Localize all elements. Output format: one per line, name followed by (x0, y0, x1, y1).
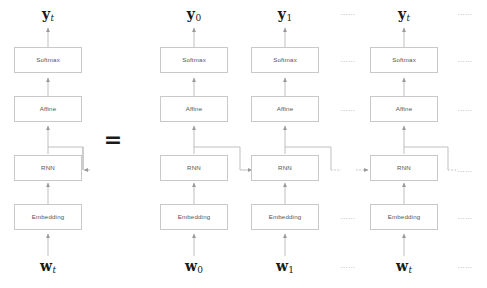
output-subscript: t (50, 13, 54, 23)
input-label-t0: w0 (185, 258, 203, 275)
node-label: Softmax (36, 57, 60, 63)
node-rnn-tt[interactable]: RNN (370, 155, 438, 181)
node-label: Affine (396, 106, 413, 112)
input-label-folded: wt (40, 258, 56, 275)
output-label-t0: y0 (187, 6, 201, 23)
input-symbol: w (396, 258, 408, 274)
ellipsis-mid-row2: …… (341, 106, 356, 113)
input-subscript: t (52, 265, 56, 275)
output-label-t1: y1 (278, 6, 292, 23)
node-label: RNN (278, 165, 292, 171)
output-label-folded: yt (42, 6, 54, 23)
node-affine-tt[interactable]: Affine (370, 96, 438, 122)
node-label: Softmax (182, 57, 206, 63)
equals-sign: = (104, 128, 122, 150)
input-subscript: 1 (288, 265, 294, 275)
node-label: RNN (397, 165, 411, 171)
ellipsis-right-row3: …… (458, 167, 473, 174)
node-softmax-tt[interactable]: Softmax (370, 47, 438, 73)
ellipsis-mid-row0: …… (341, 10, 356, 17)
node-label: Embedding (388, 214, 421, 220)
node-rnn-t1[interactable]: RNN (251, 155, 319, 181)
ellipsis-right-row4: …… (458, 214, 473, 221)
node-rnn-t0[interactable]: RNN (160, 155, 228, 181)
ellipsis-mid-row3: …… (341, 214, 356, 221)
node-embedding-t1[interactable]: Embedding (251, 204, 319, 230)
node-label: RNN (41, 165, 55, 171)
node-label: Embedding (178, 214, 211, 220)
input-label-tt: wt (396, 258, 412, 275)
node-label: Embedding (32, 214, 65, 220)
input-symbol: w (40, 258, 52, 274)
node-softmax-t0[interactable]: Softmax (160, 47, 228, 73)
node-embedding-t0[interactable]: Embedding (160, 204, 228, 230)
node-label: Softmax (392, 57, 416, 63)
ellipsis-mid-row1: …… (341, 57, 356, 64)
node-embedding-tt[interactable]: Embedding (370, 204, 438, 230)
node-softmax-t1[interactable]: Softmax (251, 47, 319, 73)
output-subscript: 0 (195, 13, 201, 23)
input-symbol: w (185, 258, 197, 274)
ellipsis-right-row0: …… (458, 10, 473, 17)
input-subscript: t (408, 265, 412, 275)
output-label-tt: yt (398, 6, 410, 23)
node-affine-t0[interactable]: Affine (160, 96, 228, 122)
input-symbol: w (276, 258, 288, 274)
node-label: Softmax (273, 57, 297, 63)
node-label: Embedding (269, 214, 302, 220)
output-symbol: y (42, 6, 50, 22)
node-label: Affine (40, 106, 57, 112)
node-label: RNN (187, 165, 201, 171)
node-rnn-folded[interactable]: RNN (14, 155, 82, 181)
output-subscript: 1 (286, 13, 292, 23)
output-symbol: y (187, 6, 195, 22)
input-subscript: 0 (197, 265, 203, 275)
ellipsis-right-row2: …… (458, 106, 473, 113)
node-embedding-folded[interactable]: Embedding (14, 204, 82, 230)
ellipsis-right-row5: …… (458, 263, 473, 270)
output-symbol: y (278, 6, 286, 22)
node-affine-folded[interactable]: Affine (14, 96, 82, 122)
rnn-unrolled-diagram: yt Softmax Affine RNN Embedding wt = y0 … (0, 0, 487, 288)
output-subscript: t (406, 13, 410, 23)
node-affine-t1[interactable]: Affine (251, 96, 319, 122)
output-symbol: y (398, 6, 406, 22)
connection-wires (0, 0, 487, 288)
ellipsis-right-row1: …… (458, 57, 473, 64)
ellipsis-mid-row4: …… (341, 263, 356, 270)
node-label: Affine (186, 106, 203, 112)
input-label-t1: w1 (276, 258, 294, 275)
node-softmax-folded[interactable]: Softmax (14, 47, 82, 73)
node-label: Affine (277, 106, 294, 112)
